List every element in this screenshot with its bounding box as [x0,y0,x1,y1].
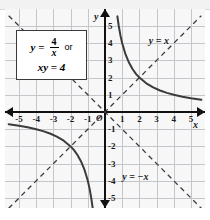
y-tick-label: 3 [108,56,113,65]
x-tick-label: 1 [120,115,125,124]
equation-lhs: y [30,42,35,53]
graph-plot-area: -5-4-3-2-11234554321-1-2-3-4-5O x y y = … [5,9,205,208]
y-tick-label: 4 [108,39,113,48]
equation-xy-form: xy = 4 [38,62,66,73]
x-tick-label: -1 [84,115,92,124]
y-tick-label: 2 [108,73,113,82]
fraction: 4 x [50,37,59,58]
y-tick-label: 5 [108,22,113,31]
x-tick-label: -2 [67,115,75,124]
x-tick-label: 4 [172,115,177,124]
figure-root: -5-4-3-2-11234554321-1-2-3-4-5O x y y = … [0,0,210,220]
equation-line-1: y = 4 x or [30,37,72,58]
y-axis-name: y [94,12,98,22]
origin-label: O [96,114,103,123]
x-axis-name: x [193,120,198,130]
equation-line-2: xy = 4 [38,62,66,73]
y-tick-label: -3 [108,159,116,168]
y-tick-label: -2 [108,142,116,151]
y-tick-label: -4 [108,176,116,185]
y-tick-label: 1 [108,90,113,99]
y-tick-label: -1 [108,125,116,134]
y-tick-label: -5 [108,194,116,203]
x-tick-label: -5 [15,115,23,124]
label-y-equals-x: y = x [149,36,169,46]
label-y-equals-negative-x: y = −x [122,172,148,182]
or-word: or [65,43,73,52]
x-tick-label: -4 [32,115,40,124]
equation-callout-box: y = 4 x or xy = 4 [16,30,87,80]
fraction-numerator: 4 [50,37,59,47]
fraction-denominator: x [50,47,59,58]
x-tick-label: 2 [137,115,142,124]
equals-sign: = [38,42,44,53]
x-tick-label: 3 [154,115,159,124]
x-tick-label: -3 [50,115,58,124]
